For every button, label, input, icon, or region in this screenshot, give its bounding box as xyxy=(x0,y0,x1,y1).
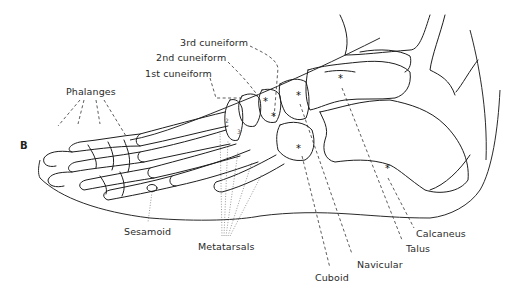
third-cuneiform-leader xyxy=(250,46,278,118)
tibia-outline xyxy=(340,15,430,55)
marker-third-cuneiform: * xyxy=(263,96,268,107)
toe-tip-outline xyxy=(39,160,41,178)
achilles-outline xyxy=(470,30,486,160)
foot-skeleton-diagram: * * * * * * 2 3 xyxy=(0,0,517,297)
fibula-outline xyxy=(430,15,455,95)
phalanx-row-2 xyxy=(69,152,144,172)
navicular-outline xyxy=(279,79,309,119)
label-calcaneus: Calcaneus xyxy=(416,228,466,239)
metatarsal-4 xyxy=(170,150,258,186)
label-talus: Talus xyxy=(406,243,430,254)
phalanges-leader-4 xyxy=(104,100,126,136)
panel-letter: B xyxy=(20,140,28,151)
marker-talus: * xyxy=(338,73,343,84)
label-second-cuneiform: 2nd cuneiform xyxy=(156,52,226,63)
phalanx-row-4 xyxy=(104,176,176,200)
phalanges-leader-1 xyxy=(58,100,80,126)
metatarsal-number-3: 3 xyxy=(237,128,241,135)
metatarsal-1 xyxy=(136,112,228,146)
talus-leader xyxy=(342,88,402,240)
fibula-lateral xyxy=(456,60,478,92)
label-third-cuneiform: 3rd cuneiform xyxy=(180,37,248,48)
label-cuboid: Cuboid xyxy=(315,272,349,283)
cuboid-leader xyxy=(302,156,330,268)
third-cuneiform-outline xyxy=(259,89,281,122)
metatarsals-leader-2 xyxy=(224,140,228,236)
calcaneus-leader xyxy=(388,178,414,228)
phalanx-row-3 xyxy=(80,168,154,190)
label-phalanges: Phalanges xyxy=(66,86,116,97)
marker-cuboid: * xyxy=(296,143,301,154)
phalanges-leader-2 xyxy=(78,100,84,124)
label-first-cuneiform: 1st cuneiform xyxy=(145,68,212,79)
first-cuneiform-leader xyxy=(210,78,242,98)
label-sesamoid: Sesamoid xyxy=(124,226,171,237)
metatarsal-number-2: 2 xyxy=(225,117,229,124)
phalanx-row-1 xyxy=(69,134,140,152)
talus-inner xyxy=(325,71,355,73)
phalanx-distal-tips xyxy=(44,151,72,187)
phalanges-leader-3 xyxy=(96,100,100,124)
second-cuneiform-leader xyxy=(228,62,258,96)
marker-calcaneus: * xyxy=(385,163,390,174)
marker-second-cuneiform: * xyxy=(271,111,276,122)
marker-navicular: * xyxy=(296,90,301,101)
sesamoid-bone xyxy=(147,185,157,192)
calcaneus-outline xyxy=(320,100,468,192)
label-navicular: Navicular xyxy=(357,259,403,270)
heel-outline xyxy=(480,90,500,190)
label-metatarsals: Metatarsals xyxy=(198,241,255,252)
cuboid-outline xyxy=(277,122,314,160)
